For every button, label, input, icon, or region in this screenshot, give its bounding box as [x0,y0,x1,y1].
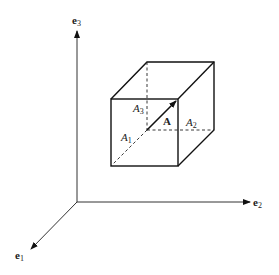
axis-label-e2: e2 [253,196,262,210]
coordinate-axes [31,31,250,249]
axis-label-e3: e3 [72,14,81,28]
vector-label-A: A [163,115,171,127]
component-label-A2: A2 [185,116,197,130]
vector-A-arrow [147,101,176,130]
axis-label-e1: e1 [15,249,24,263]
component-label-A1: A1 [120,131,132,145]
axis-e1 [31,202,77,249]
component-label-A3: A3 [132,102,144,116]
cube-top-right-edge [178,62,214,99]
vector-components-diagram: e3 e2 e1 A A3 A2 A1 [0,0,279,275]
